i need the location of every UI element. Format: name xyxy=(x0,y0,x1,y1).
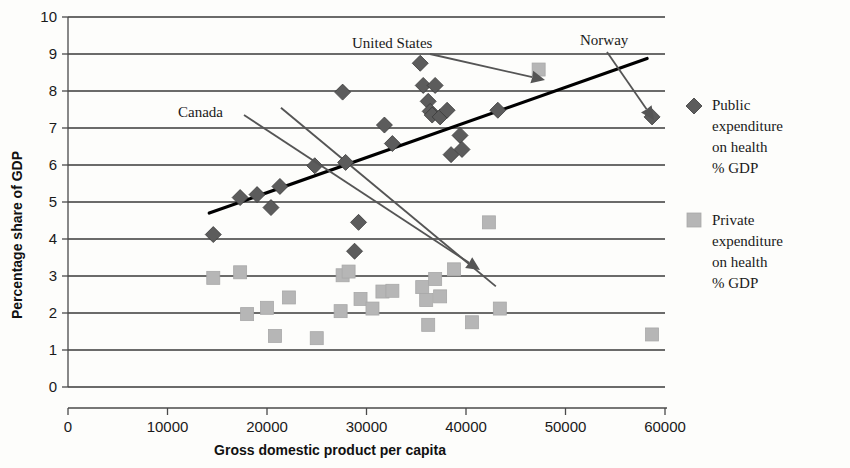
data-point-square xyxy=(241,308,254,321)
data-point-square xyxy=(429,272,442,285)
chart-legend: Publicexpenditureon health% GDPPrivateex… xyxy=(686,97,783,291)
data-point-square xyxy=(646,328,659,341)
x-axis-title: Gross domestic product per capita xyxy=(214,442,446,458)
data-point-square xyxy=(416,281,429,294)
data-point-square xyxy=(493,302,506,315)
legend-marker-diamond xyxy=(686,98,702,114)
scatter-plot: 012345678910 010000200003000040000500006… xyxy=(0,0,850,468)
trendlines-group xyxy=(209,58,647,286)
legend-label-line: on health xyxy=(712,254,768,270)
data-point-square xyxy=(354,292,367,305)
x-tick-label-60000: 60000 xyxy=(644,418,686,435)
y-tick-label-0: 0 xyxy=(49,378,57,395)
annotation-label-norway: Norway xyxy=(580,32,629,48)
data-point-square xyxy=(282,291,295,304)
data-point-square xyxy=(434,290,447,303)
y-axis-title: Percentage share of GDP xyxy=(9,151,25,319)
data-point-square xyxy=(366,302,379,315)
series-public-expenditure xyxy=(205,55,660,259)
data-point-diamond xyxy=(452,127,468,143)
x-tick-label-0: 0 xyxy=(64,418,72,435)
y-tick-label-8: 8 xyxy=(49,82,57,99)
legend-label-line: expenditure xyxy=(712,233,783,249)
legend-label-line: % GDP xyxy=(712,275,758,291)
y-tick-label-1: 1 xyxy=(49,341,57,358)
x-tick-label-40000: 40000 xyxy=(445,418,487,435)
x-tick-label-20000: 20000 xyxy=(246,418,288,435)
data-point-diamond xyxy=(347,243,363,259)
data-point-diamond xyxy=(412,55,428,71)
legend-label-line: Private xyxy=(712,212,755,228)
data-point-square xyxy=(448,263,461,276)
annotation-label-united-states: United States xyxy=(352,35,433,51)
x-tick-label-10000: 10000 xyxy=(147,418,189,435)
data-point-square xyxy=(482,216,495,229)
y-tick-label-10: 10 xyxy=(40,8,57,25)
annotation-label-canada: Canada xyxy=(178,104,223,120)
y-tick-label-2: 2 xyxy=(49,304,57,321)
data-point-square xyxy=(310,332,323,345)
data-point-square xyxy=(465,316,478,329)
y-tick-label-4: 4 xyxy=(49,230,57,247)
y-tick-label-9: 9 xyxy=(49,45,57,62)
x-tick-label-30000: 30000 xyxy=(346,418,388,435)
data-point-square xyxy=(234,266,247,279)
y-tick-label-6: 6 xyxy=(49,156,57,173)
data-point-square xyxy=(386,284,399,297)
legend-label-line: % GDP xyxy=(712,160,758,176)
data-point-diamond xyxy=(376,117,392,133)
data-point-square xyxy=(422,318,435,331)
data-point-diamond xyxy=(272,178,288,194)
data-point-diamond xyxy=(249,187,265,203)
chart-container: 012345678910 010000200003000040000500006… xyxy=(0,0,850,468)
gridlines-group xyxy=(68,17,665,387)
data-point-square xyxy=(342,265,355,278)
annotations-group: United StatesNorwayCanada xyxy=(178,32,654,270)
legend-label-line: on health xyxy=(712,139,768,155)
data-point-square xyxy=(334,305,347,318)
data-point-square xyxy=(420,294,433,307)
y-tick-label-5: 5 xyxy=(49,193,57,210)
data-point-diamond xyxy=(335,84,351,100)
data-point-square xyxy=(207,271,220,284)
data-point-diamond xyxy=(351,214,367,230)
annotation-leader-line xyxy=(430,54,532,77)
legend-label-line: expenditure xyxy=(712,118,783,134)
y-axis: 012345678910 xyxy=(40,8,68,395)
y-tick-label-7: 7 xyxy=(49,119,57,136)
x-axis: 0100002000030000400005000060000 xyxy=(64,408,686,435)
data-point-square xyxy=(261,301,274,314)
data-point-square xyxy=(268,329,281,342)
y-tick-label-3: 3 xyxy=(49,267,57,284)
x-tick-label-50000: 50000 xyxy=(545,418,587,435)
data-point-diamond xyxy=(490,102,506,118)
legend-label-line: Public xyxy=(712,97,751,113)
legend-marker-square xyxy=(687,213,701,227)
data-point-diamond xyxy=(205,227,221,243)
